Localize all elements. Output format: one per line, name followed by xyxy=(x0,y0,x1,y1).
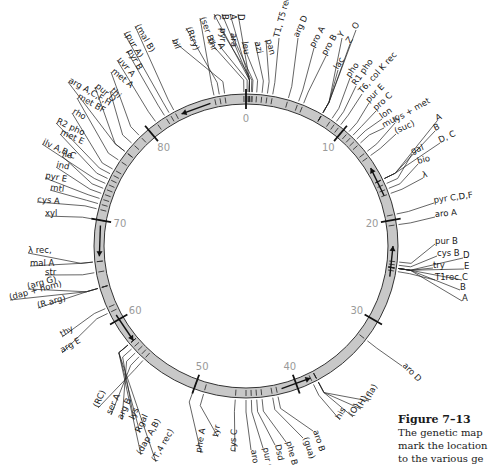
gene-label: pan xyxy=(264,38,278,56)
leader-line xyxy=(98,360,143,408)
gene-label: (RC) xyxy=(91,388,108,409)
leader-line xyxy=(257,400,275,445)
leader-line xyxy=(399,244,435,263)
scale-label-70: 70 xyxy=(114,218,127,229)
figure-title: Figure 7–13 xyxy=(398,413,488,426)
leader-line xyxy=(288,38,298,98)
gene-label: C xyxy=(212,14,222,20)
gene-label: B xyxy=(460,282,466,292)
scale-label-30: 30 xyxy=(350,305,363,316)
gene-label: mtl xyxy=(50,182,65,194)
leader-line xyxy=(349,103,369,132)
gene-label: pur B xyxy=(435,236,458,246)
gene-label: rho xyxy=(71,106,88,122)
gene-label: aro A xyxy=(434,207,457,219)
leader-line xyxy=(397,203,434,214)
gene-label: try xyxy=(433,260,445,270)
leader-line xyxy=(278,397,313,431)
gene-label: aro C xyxy=(249,449,262,465)
scale-label-60: 60 xyxy=(129,305,142,316)
gene-label: aro D xyxy=(401,360,425,384)
gene-label: tyr xyxy=(210,423,222,437)
gene-label: cys A xyxy=(37,194,61,206)
gene-label: pyr xyxy=(218,28,228,42)
leader-line xyxy=(367,123,395,151)
gene-label: str xyxy=(45,267,57,277)
ring-band xyxy=(99,99,393,393)
gene-label: azi xyxy=(253,41,265,55)
gene-label: pyr C,D,F xyxy=(433,190,474,205)
scale-label-20: 20 xyxy=(366,218,379,229)
leader-line xyxy=(304,56,326,103)
leader-line xyxy=(299,48,314,101)
gene-label: mal A xyxy=(30,258,55,268)
gene-label: (R arg) xyxy=(36,293,67,310)
gene-label: D xyxy=(463,250,470,260)
gene-label: bil xyxy=(170,37,183,50)
leader-line xyxy=(360,128,384,143)
gene-label: pur C xyxy=(261,447,275,465)
gene-label: Dsd xyxy=(273,443,286,461)
caption-line-2: mark the location xyxy=(398,439,488,452)
gene-label: A xyxy=(462,293,468,303)
gene-label: λ rec, xyxy=(28,245,52,255)
chromosome-ring xyxy=(94,94,398,398)
leader-line xyxy=(367,341,402,366)
leader-line xyxy=(371,134,396,155)
gene-label: bio xyxy=(416,153,431,166)
gene-label: Z xyxy=(343,34,355,45)
gene-label: T1, T5 rec xyxy=(271,0,292,39)
gene-label: arg D xyxy=(291,13,310,39)
gene-label: (Rtry) xyxy=(184,25,202,51)
scale-label-0: 0 xyxy=(243,113,249,124)
leader-line xyxy=(332,78,350,118)
leader-line xyxy=(357,119,382,139)
caption-line-3: to the various ge xyxy=(398,452,488,465)
leader-line xyxy=(323,70,338,113)
leader-line xyxy=(337,86,356,121)
gene-label: B xyxy=(432,121,442,133)
gene-label: E xyxy=(464,261,469,271)
gene-label: cys C xyxy=(227,429,239,453)
gene-label: thy xyxy=(58,323,75,339)
gene-label: xyl xyxy=(45,208,57,218)
gene-label: cys B xyxy=(437,248,460,258)
caption-line-1: The genetic map xyxy=(398,426,488,439)
gene-label: ara xyxy=(229,33,239,47)
ring-inner-edge xyxy=(104,104,388,388)
leader-line xyxy=(246,400,251,450)
gene-label: his xyxy=(333,405,348,421)
leader-line xyxy=(399,217,435,225)
gene-label: T1rec xyxy=(434,272,459,282)
figure-caption: Figure 7–13 The genetic map mark the loc… xyxy=(398,413,488,465)
scale-label-40: 40 xyxy=(283,361,296,372)
scale-label-50: 50 xyxy=(196,361,209,372)
gene-label: phe B xyxy=(284,440,300,465)
gene-label: ind xyxy=(56,159,71,172)
gene-label: O xyxy=(349,20,361,31)
leader-line xyxy=(273,398,303,438)
gene-label: C xyxy=(462,272,468,282)
scale-label-10: 10 xyxy=(322,142,335,153)
scale-label-80: 80 xyxy=(157,142,170,153)
gene-label: lac xyxy=(331,55,346,71)
gene-label: phe A xyxy=(193,427,207,453)
